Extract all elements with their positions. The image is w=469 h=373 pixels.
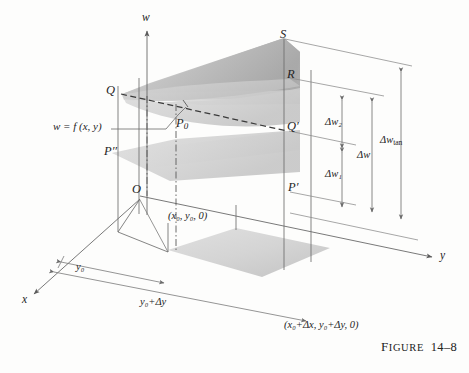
dim-tick-origin-drop — [140, 200, 168, 252]
figure-14-8: w y x Q S R Q′ P′ P′′ P0 O w = f (x, y) … — [0, 0, 469, 373]
x-axis — [34, 199, 140, 294]
surface-equation-label: w = f (x, y) — [53, 121, 102, 132]
axis-label-w: w — [142, 12, 150, 24]
delta-w-tan-base: Δw — [380, 134, 393, 145]
dimension-label-y0: y₀ — [76, 262, 84, 273]
dim-arrow-y0-plus-dy — [54, 272, 306, 321]
origin-corner-lines — [118, 199, 168, 252]
base-rectangle-surface — [168, 228, 330, 277]
ext-line-S — [285, 39, 412, 66]
point-label-P0: P0 — [176, 117, 188, 131]
point-label-P-prime: P′ — [288, 181, 298, 194]
base-bottom-left-edge — [118, 232, 168, 252]
dimension-label-delta-w-tan: Δwtan — [380, 135, 402, 146]
point-label-Q: Q — [106, 84, 115, 97]
surface-group — [112, 38, 330, 277]
figure-caption: FIGURE 14–8 — [381, 339, 457, 355]
far-point-coordinate-label: (x₀+Δx, y₀+Δy, 0) — [284, 320, 359, 331]
dimension-label-delta-w1: Δw₁ — [325, 169, 342, 180]
dim-tick-y0-left — [58, 256, 64, 268]
point-label-Q-prime: Q′ — [287, 120, 299, 133]
dimension-label-delta-w2: Δw₂ — [325, 117, 342, 128]
delta-w-tan-subscript: tan — [393, 138, 402, 147]
axis-label-x: x — [22, 294, 27, 306]
caption-word-rest: IGURE — [389, 342, 424, 353]
point-label-P0-letter: P — [176, 116, 184, 130]
caption-first-letter: F — [381, 339, 389, 354]
dimension-label-delta-w: Δw — [357, 150, 370, 161]
dimension-label-y0-plus-delta-y: y₀+Δy — [140, 297, 166, 308]
base-point-coordinate-label: (x₀, y₀, 0) — [168, 211, 207, 222]
point-label-S: S — [280, 28, 286, 41]
ext-line-R — [290, 78, 384, 96]
ext-line-Pprime — [290, 192, 356, 205]
point-label-P0-subscript: 0 — [184, 121, 189, 131]
point-label-P-double-prime: P′′ — [104, 145, 117, 158]
axis-label-y: y — [440, 250, 445, 262]
point-label-R: R — [287, 68, 295, 81]
caption-number — [424, 340, 431, 354]
ext-line-base-right — [290, 213, 418, 240]
figure-vector-canvas — [0, 0, 469, 373]
caption-number-value: 14–8 — [431, 340, 457, 354]
point-label-origin: O — [132, 183, 141, 196]
